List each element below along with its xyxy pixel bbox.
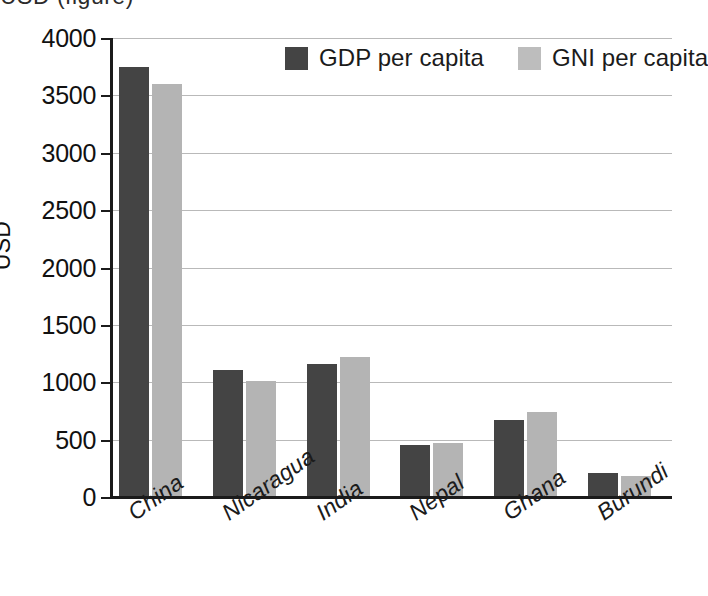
legend-label-gdp: GDP per capita	[319, 44, 484, 72]
y-axis-tick-label: 1000	[42, 368, 96, 397]
y-axis-tick	[101, 210, 110, 212]
y-axis-title: USD	[0, 221, 16, 270]
y-axis-tick-label: 500	[55, 425, 96, 454]
y-axis-tick	[101, 497, 110, 499]
bar-gdp	[213, 370, 243, 497]
y-axis-tick	[101, 38, 110, 40]
bar-gni	[340, 357, 370, 497]
x-axis-line	[110, 496, 672, 499]
y-axis-tick-label: 4000	[42, 24, 96, 53]
y-axis-tick-label: 3000	[42, 138, 96, 167]
bar-gdp	[307, 364, 337, 497]
bar-group	[494, 38, 557, 497]
bar-group	[400, 38, 463, 497]
y-axis-tick	[101, 325, 110, 327]
legend-item-gdp: GDP per capita	[285, 44, 484, 72]
y-axis-tick	[101, 153, 110, 155]
bar-gdp	[119, 67, 149, 497]
legend-swatch-gni-icon	[518, 47, 541, 70]
bar-group	[307, 38, 370, 497]
bar-gni	[152, 84, 182, 497]
y-axis-tick-label: 2000	[42, 253, 96, 282]
y-axis-tick	[101, 95, 110, 97]
y-axis-tick	[101, 440, 110, 442]
y-axis-tick	[101, 382, 110, 384]
legend-item-gni: GNI per capita	[518, 44, 708, 72]
bar-group	[588, 38, 651, 497]
legend-label-gni: GNI per capita	[552, 44, 708, 72]
y-axis-tick-label: 3500	[42, 81, 96, 110]
plot-area	[110, 38, 672, 497]
chart-legend: GDP per capita GNI per capita	[285, 44, 708, 72]
bar-group	[119, 38, 182, 497]
y-axis-line	[110, 38, 113, 498]
y-axis-tick-label: 1500	[42, 310, 96, 339]
y-axis-tick-label: 0	[82, 483, 96, 512]
y-axis-tick-label: 2500	[42, 196, 96, 225]
y-axis-tick	[101, 268, 110, 270]
legend-swatch-gdp-icon	[285, 47, 308, 70]
bar-group	[213, 38, 276, 497]
bar-gdp	[494, 420, 524, 497]
